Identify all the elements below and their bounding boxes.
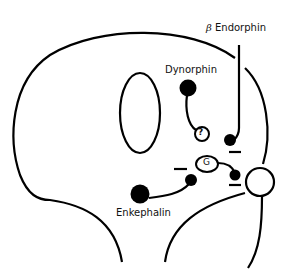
enkephalin-label: Enkephalin <box>116 207 171 218</box>
axon-outline <box>165 193 245 262</box>
beta-symbol: β <box>206 22 212 33</box>
g-protein-label: G <box>203 157 210 167</box>
target-receptor <box>246 168 274 196</box>
neuron-diagram <box>0 0 289 277</box>
dynorphin-label: Dynorphin <box>165 64 217 75</box>
enkephalin-cell <box>131 185 150 204</box>
beta-endorphin-terminal <box>224 134 236 146</box>
axon-fiber <box>248 196 262 268</box>
dynorphin-cell <box>180 80 197 97</box>
beta-endorphin-fiber <box>234 45 239 140</box>
dynorphin-fiber <box>186 95 196 130</box>
cell-body-outline-right <box>245 68 267 164</box>
enkephalin-terminal <box>185 174 197 186</box>
endorphin-text: Endorphin <box>215 22 266 33</box>
beta-endorphin-label: β Endorphin <box>206 22 266 33</box>
unknown-label: ? <box>198 127 203 137</box>
g-protein-terminal <box>230 170 241 181</box>
nucleus <box>120 73 160 153</box>
enkephalin-fiber <box>149 184 189 198</box>
